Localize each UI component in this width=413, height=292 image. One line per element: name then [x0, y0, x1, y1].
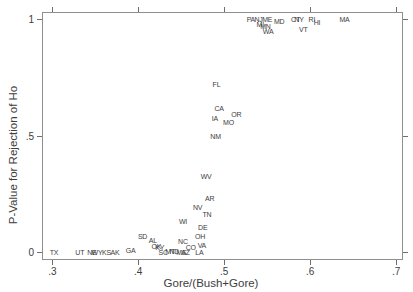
data-point-label-ma: MA	[339, 15, 349, 22]
scatter-plot-figure: .3.4.5.6.70.51 TXUTNEWYKSAKGASDALOKKYSCM…	[0, 0, 413, 292]
data-point-label-tn: TN	[203, 210, 212, 217]
data-point-label-sd: SD	[138, 232, 147, 239]
x-axis-tick	[396, 260, 397, 265]
data-point-label-nm: NM	[210, 133, 221, 140]
data-point-label-nv: NV	[193, 204, 202, 211]
data-point-label-wi: WI	[179, 217, 187, 224]
x-axis-tick	[310, 260, 311, 265]
data-point-label-hi: HI	[314, 19, 321, 26]
data-point-label-la: LA	[195, 249, 203, 256]
x-axis-tick-label: .5	[220, 266, 228, 277]
data-point-label-wv: WV	[201, 172, 212, 179]
data-point-label-tx: TX	[50, 249, 59, 256]
y-axis-tick-label: 0	[28, 247, 34, 258]
data-point-label-ak: AK	[111, 248, 120, 255]
x-axis-tick	[52, 260, 53, 265]
x-axis-tick-label: .4	[134, 266, 142, 277]
data-point-label-de: DE	[198, 224, 207, 231]
x-axis-tick-label: .6	[306, 266, 314, 277]
data-point-label-ia: IA	[212, 115, 218, 122]
data-point-label-vt: VT	[299, 26, 308, 33]
data-point-label-mo: MO	[223, 118, 234, 125]
y-axis-tick-mirror	[403, 136, 408, 137]
data-point-label-ga: GA	[126, 246, 136, 253]
y-axis-title: P-Value for Rejection of Ho	[7, 86, 19, 225]
x-axis-tick-label: .7	[392, 266, 400, 277]
x-axis-tick	[138, 260, 139, 265]
data-point-label-or: OR	[231, 111, 241, 118]
plot-frame	[42, 12, 403, 260]
x-axis-tick-mirror	[138, 7, 139, 12]
x-axis-tick-mirror	[224, 7, 225, 12]
data-point-label-ca: CA	[214, 105, 223, 112]
x-axis-tick-mirror	[310, 7, 311, 12]
y-axis-tick-mirror	[403, 19, 408, 20]
y-axis-tick-label: 1	[28, 13, 34, 24]
x-axis-tick-label: .3	[48, 266, 56, 277]
data-point-label-ny: NY	[294, 15, 303, 22]
y-axis-tick	[37, 136, 42, 137]
data-point-label-wa: WA	[263, 27, 274, 34]
data-point-label-oh: OH	[195, 232, 205, 239]
x-axis-tick-mirror	[52, 7, 53, 12]
data-point-label-fl: FL	[213, 81, 221, 88]
x-axis-tick	[224, 260, 225, 265]
y-axis-tick	[37, 19, 42, 20]
data-point-label-ut: UT	[75, 249, 84, 256]
data-point-label-md: MD	[274, 18, 285, 25]
x-axis-title: Gore/(Bush+Gore)	[164, 277, 259, 289]
y-axis-tick-label: .5	[26, 130, 34, 141]
data-point-label-wy: WY	[92, 249, 103, 256]
x-axis-tick-mirror	[396, 7, 397, 12]
y-axis-tick	[37, 252, 42, 253]
y-axis-tick-mirror	[403, 252, 408, 253]
data-point-label-va: VA	[198, 242, 206, 249]
data-point-label-ar: AR	[205, 195, 214, 202]
